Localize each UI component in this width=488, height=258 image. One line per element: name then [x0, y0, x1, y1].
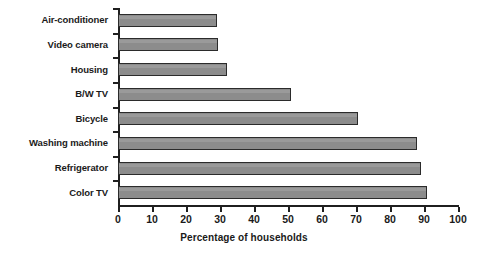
bar-video-camera	[118, 38, 218, 51]
bar-row	[118, 131, 458, 156]
y-tick	[113, 156, 118, 158]
x-tick	[322, 207, 324, 212]
bar-bw-tv	[118, 88, 291, 101]
x-tick	[424, 207, 426, 212]
bar-highlight	[119, 114, 357, 117]
category-label: Air-conditioner	[41, 14, 108, 25]
y-tick	[113, 33, 118, 35]
y-tick	[113, 8, 118, 10]
bar-row	[118, 33, 458, 58]
category-label: Color TV	[69, 187, 108, 198]
bar-highlight	[119, 16, 216, 19]
bar-row	[118, 8, 458, 33]
bar-row	[118, 107, 458, 132]
x-axis-title: Percentage of households	[0, 232, 488, 243]
bar-highlight	[119, 65, 226, 68]
bar-housing	[118, 63, 227, 76]
category-label: Video camera	[48, 39, 108, 50]
category-label: Bicycle	[75, 113, 108, 124]
x-tick	[356, 207, 358, 212]
x-tick	[390, 207, 392, 212]
y-tick	[113, 57, 118, 59]
category-label: B/W TV	[75, 88, 108, 99]
category-label: Refrigerator	[55, 162, 108, 173]
x-tick	[152, 207, 154, 212]
x-tick-label: 100	[438, 213, 478, 225]
plot-area	[118, 8, 458, 205]
y-tick	[113, 180, 118, 182]
category-label: Washing machine	[29, 137, 108, 148]
y-tick	[113, 131, 118, 133]
bar-row	[118, 82, 458, 107]
y-tick	[113, 107, 118, 109]
x-tick	[220, 207, 222, 212]
x-tick	[118, 207, 120, 212]
bar-row	[118, 57, 458, 82]
category-labels: Air-conditioner Video camera Housing B/W…	[0, 8, 114, 205]
bar-row	[118, 180, 458, 205]
bar-washing-machine	[118, 137, 417, 150]
bar-highlight	[119, 40, 217, 43]
x-tick	[254, 207, 256, 212]
bar-highlight	[119, 90, 290, 93]
bar-row	[118, 156, 458, 181]
bar-bicycle	[118, 112, 358, 125]
x-tick	[186, 207, 188, 212]
bar-highlight	[119, 164, 420, 167]
x-tick	[458, 207, 460, 212]
x-tick	[288, 207, 290, 212]
y-tick	[113, 82, 118, 84]
bar-chart: Air-conditioner Video camera Housing B/W…	[0, 0, 488, 258]
category-label: Housing	[71, 64, 108, 75]
bar-color-tv	[118, 186, 427, 199]
bar-highlight	[119, 188, 426, 191]
bar-highlight	[119, 139, 416, 142]
bar-refrigerator	[118, 162, 421, 175]
bar-air-conditioner	[118, 14, 217, 27]
